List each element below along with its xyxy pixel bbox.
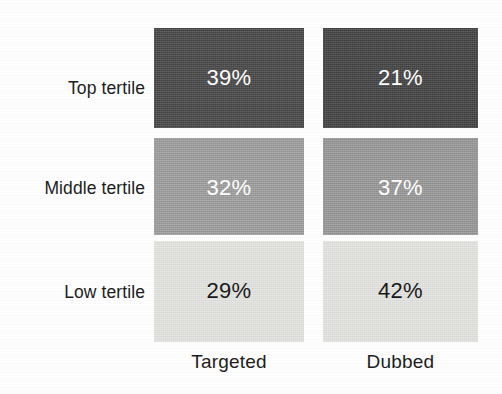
cell-middle-tertile-dubbed: 37% <box>323 138 478 235</box>
tertile-percentage-figure: Top tertile Middle tertile Low tertile 3… <box>0 0 502 394</box>
cell-low-tertile-targeted: 29% <box>154 241 304 342</box>
cell-value-middle-tertile-targeted: 32% <box>154 175 304 201</box>
row-label-low-tertile: Low tertile <box>0 282 145 302</box>
cell-value-top-tertile-targeted: 39% <box>154 65 304 91</box>
column-label-targeted: Targeted <box>154 351 304 373</box>
cell-top-tertile-targeted: 39% <box>154 28 304 128</box>
cell-value-low-tertile-dubbed: 42% <box>323 278 478 304</box>
row-label-top-tertile: Top tertile <box>0 78 145 98</box>
cell-value-middle-tertile-dubbed: 37% <box>323 175 478 201</box>
cell-low-tertile-dubbed: 42% <box>323 241 478 342</box>
cell-value-top-tertile-dubbed: 21% <box>323 65 478 91</box>
cell-middle-tertile-targeted: 32% <box>154 138 304 235</box>
row-label-middle-tertile: Middle tertile <box>0 178 145 198</box>
cell-value-low-tertile-targeted: 29% <box>154 278 304 304</box>
column-label-dubbed: Dubbed <box>323 351 478 373</box>
cell-top-tertile-dubbed: 21% <box>323 28 478 128</box>
